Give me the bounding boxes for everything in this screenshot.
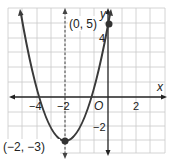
point-label-y-intercept: (0, 5) bbox=[69, 17, 97, 31]
symmetry-arrow-up-icon bbox=[63, 8, 68, 14]
symmetry-arrow-down-icon bbox=[63, 153, 68, 159]
x-axis-arrow-left-icon bbox=[9, 95, 15, 100]
x-tick-2: 2 bbox=[133, 100, 139, 112]
x-axis-arrow-right-icon bbox=[161, 95, 167, 100]
y-tick-neg2: −2 bbox=[93, 121, 106, 133]
y-axis-label: y bbox=[99, 7, 107, 21]
curve-arrow-left-icon bbox=[18, 9, 24, 16]
point-y-intercept bbox=[106, 21, 113, 28]
origin-label: O bbox=[94, 99, 103, 113]
point-vertex bbox=[62, 138, 69, 145]
point-label-vertex: (−2, −3) bbox=[3, 140, 45, 154]
graph: x y O −4 −2 2 4 −2 (0, 5) (−2, −3) bbox=[0, 0, 176, 163]
x-tick-neg2: −2 bbox=[57, 100, 70, 112]
x-axis-label: x bbox=[156, 80, 164, 94]
y-tick-4: 4 bbox=[99, 32, 105, 44]
x-tick-neg4: −4 bbox=[29, 100, 42, 112]
